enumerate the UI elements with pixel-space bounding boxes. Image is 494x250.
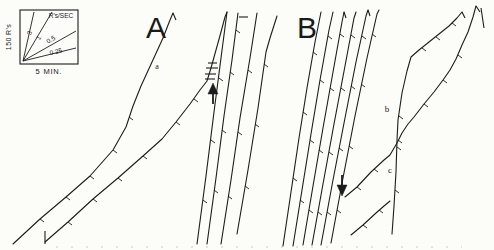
trace-b-run-4: [312, 12, 356, 245]
trace-a-label: a: [155, 63, 159, 71]
pip-steep-a-3-1: [238, 132, 242, 135]
pip-steep-a-4-0: [245, 186, 249, 189]
trace-record-a1: [13, 13, 173, 244]
pip-record-b-2: [399, 116, 403, 119]
pip-steep-a-1-1: [211, 140, 215, 143]
trace-c-label: c: [388, 166, 392, 175]
pip-b-run-3-3: [340, 34, 344, 37]
top-peak-record-b: [462, 12, 465, 18]
pip-record-a2-3: [143, 156, 147, 159]
pip-record-b-3: [422, 48, 426, 51]
pip-steep-a-1-2: [219, 78, 223, 81]
pip-b-run-4-3: [351, 35, 355, 38]
y-axis-scale-label: 150 R's: [5, 24, 12, 50]
cumulative-record-plot: [0, 0, 494, 250]
trace-b-run-1: [283, 12, 321, 246]
pip-b-run-6-1: [349, 146, 353, 149]
trace-b-run-5: [321, 10, 368, 245]
pip-b-run-2-2: [320, 80, 324, 83]
pip-record-a1-3: [113, 150, 117, 153]
pip-record-a2-2: [118, 178, 122, 181]
pip-record-c-5: [458, 55, 462, 58]
top-hook-a1: [173, 13, 176, 20]
pip-steep-a-2-3: [236, 30, 240, 33]
pip-b-run-2-1: [310, 140, 314, 143]
pip-b-run-4-1: [329, 152, 333, 155]
pip-b-run-5-1: [339, 148, 343, 151]
rate-ray-0: [23, 12, 34, 61]
pip-record-a2-5: [194, 99, 198, 102]
pip-steep-a-2-1: [222, 130, 226, 133]
trace-record-a2: [45, 12, 227, 242]
pip-record-b-0: [395, 190, 399, 193]
figure-canvas: A B a b c 150 R's 5 MIN. R's/SEC 310.50.…: [0, 0, 494, 250]
panel-a-label: A: [146, 13, 166, 43]
pip-record-a1-1: [66, 197, 70, 200]
pip-record-a1-4: [129, 117, 133, 120]
pip-segment-bottom-b-0: [363, 225, 367, 228]
pip-record-c-3: [424, 104, 428, 107]
pip-record-a2-1: [93, 199, 97, 202]
pip-b-run-1-2: [313, 52, 317, 55]
pip-record-c-4: [443, 80, 447, 83]
trace-steep-a-3: [221, 13, 257, 244]
rate-unit-label: R's/SEC: [49, 13, 73, 20]
pip-b-run-3-0: [309, 210, 313, 213]
pip-b-run-4-2: [341, 88, 345, 91]
pip-record-a2-0: [68, 222, 72, 225]
pip-steep-a-1-0: [203, 200, 207, 203]
pip-record-a1-0: [40, 219, 44, 222]
pip-b-run-6-0: [337, 210, 341, 213]
pip-b-run-3-2: [330, 88, 334, 91]
pip-b-run-5-2: [351, 86, 355, 89]
pip-record-b-4: [436, 37, 440, 40]
pip-b-run-5-3: [362, 36, 366, 39]
pip-record-c-0: [357, 187, 361, 190]
pip-steep-a-3-2: [248, 70, 252, 73]
trace-b-label: b: [385, 105, 390, 114]
trace-record-b: [392, 12, 462, 234]
top-hook-brun5: [368, 10, 370, 16]
pip-b-run-3-1: [319, 150, 323, 153]
pip-record-c-1: [374, 169, 378, 172]
x-axis-scale-label: 5 MIN.: [36, 68, 63, 76]
trace-record-c: [345, 6, 476, 197]
panel-b-label: B: [297, 13, 317, 43]
pip-segment-bottom-b-1: [379, 210, 383, 213]
pip-b-run-1-0: [293, 178, 297, 181]
pip-record-b-5: [452, 23, 456, 26]
trace-segment-bottom-b: [351, 201, 390, 235]
pip-b-run-1-1: [303, 112, 307, 115]
reset-line-right: [481, 8, 484, 28]
top-hook-brun3: [344, 12, 346, 18]
pip-record-b-1: [397, 147, 401, 150]
pip-b-run-2-3: [328, 36, 332, 39]
pip-record-c-2: [398, 140, 402, 143]
pip-record-a1-2: [90, 176, 94, 179]
pip-record-a2-4: [176, 122, 180, 125]
pip-b-run-5-0: [327, 212, 331, 215]
top-hook-record-c: [476, 6, 480, 12]
pip-b-run-4-0: [318, 212, 322, 215]
event-arrow-down-b-icon: [337, 185, 347, 196]
